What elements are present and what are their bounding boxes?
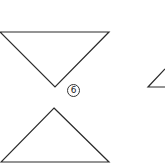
inverted-triangle [0,32,109,87]
upright-triangle [1,108,109,162]
figure-number-label: 6 [67,84,80,97]
diagram-canvas [0,0,165,166]
partial-triangle-right [148,69,165,87]
